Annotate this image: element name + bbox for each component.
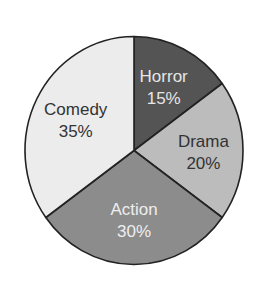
slice-label-drama: Drama — [178, 132, 230, 151]
slice-value-action: 30% — [117, 222, 151, 241]
pie-chart: Horror15%Drama20%Action30%Comedy35% — [0, 0, 255, 282]
slice-label-horror: Horror — [140, 67, 189, 86]
slice-value-comedy: 35% — [59, 122, 93, 141]
slice-value-horror: 15% — [147, 89, 181, 108]
slice-label-action: Action — [110, 200, 157, 219]
slice-value-drama: 20% — [186, 154, 220, 173]
slice-label-comedy: Comedy — [44, 100, 108, 119]
